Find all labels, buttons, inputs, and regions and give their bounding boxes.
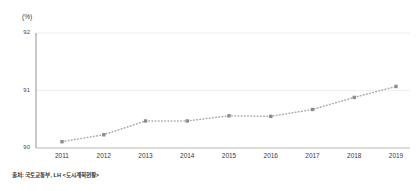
y-axis-tick-label: 90 bbox=[16, 144, 30, 150]
data-point-marker bbox=[311, 108, 314, 111]
y-axis-tick-label: 91 bbox=[16, 87, 30, 93]
chart-figure: (%) 909192 20112012201320142015201620172… bbox=[0, 0, 420, 191]
data-point-marker bbox=[60, 140, 63, 143]
data-point-marker bbox=[353, 96, 356, 99]
x-axis-tick-label: 2017 bbox=[296, 152, 330, 159]
data-point-marker bbox=[102, 133, 105, 136]
chart-plot-area bbox=[0, 0, 420, 191]
y-axis-tick-label: 92 bbox=[16, 29, 30, 35]
data-point-marker bbox=[186, 119, 189, 122]
data-point-markers bbox=[60, 85, 397, 144]
x-axis-tick-label: 2019 bbox=[379, 152, 413, 159]
data-point-marker bbox=[144, 119, 147, 122]
x-axis-tick-label: 2016 bbox=[254, 152, 288, 159]
data-point-marker bbox=[394, 85, 397, 88]
gridlines-group bbox=[36, 33, 410, 91]
x-axis-tick-label: 2011 bbox=[45, 152, 79, 159]
x-axis-tick-label: 2014 bbox=[170, 152, 204, 159]
series-polyline bbox=[62, 86, 396, 141]
data-series-line bbox=[62, 86, 396, 141]
x-axis-tick-label: 2013 bbox=[129, 152, 163, 159]
source-note: 출처: 국토교통부, LH <도시계획현황> bbox=[12, 171, 99, 179]
x-axis-tick-label: 2012 bbox=[87, 152, 121, 159]
data-point-marker bbox=[227, 114, 230, 117]
x-axis-tick-label: 2015 bbox=[212, 152, 246, 159]
x-axis-tick-label: 2018 bbox=[337, 152, 371, 159]
data-point-marker bbox=[269, 115, 272, 118]
